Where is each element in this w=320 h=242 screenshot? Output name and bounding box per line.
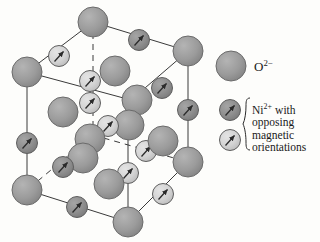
nickel-atom-light [153,184,174,205]
nickel-atom-dark [129,30,150,51]
legend-nickel-light-icon [220,130,241,151]
nickel-atom-light [49,46,70,67]
nickel-atom-dark [17,133,38,154]
legend-oxygen-icon [216,51,246,81]
oxygen-atom [148,126,178,156]
legend-nickel-charge: 2+ [264,102,273,111]
legend-nickel-dark-icon [220,100,241,121]
legend-brace-icon [243,98,250,150]
legend-nickel-line1: Ni2+ with [252,101,306,116]
legend-nickel-line2: opposing [252,116,306,128]
oxygen-atom [12,175,42,205]
oxygen-atom [173,147,203,177]
legend-nickel-line3: magnetic [252,129,306,141]
legend-nickel-line1-rest: with [272,104,295,116]
oxygen-atom [12,57,42,87]
oxygen-atom [48,97,78,127]
oxygen-atom [113,207,143,237]
nickel-atom-dark [67,197,88,218]
nickel-atom-dark [53,157,74,178]
legend-oxygen-symbol: O [254,59,263,74]
legend-oxygen-label: O2− [254,57,273,73]
oxygen-atom [94,169,124,199]
crystal-structure-figure: O2− Ni2+ with opposing magnetic orientat… [0,0,320,242]
oxygen-atom [78,7,108,37]
nickel-atom-light [80,71,101,92]
legend-nickel-symbol: Ni [252,104,264,116]
oxygen-atom [173,36,203,66]
oxygen-atom [100,56,130,86]
legend-oxygen-charge: 2− [263,58,273,68]
nickel-atom-dark [178,100,199,121]
legend-nickel-line4: orientations [252,141,306,153]
legend-nickel-label: Ni2+ with opposing magnetic orientations [252,101,306,153]
nickel-atom-dark [152,78,173,99]
nickel-atom-light [80,93,101,114]
